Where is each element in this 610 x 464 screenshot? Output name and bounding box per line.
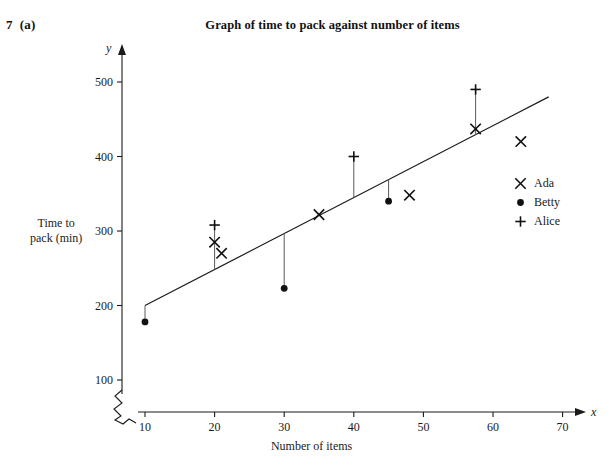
data-point-alice <box>470 84 480 94</box>
x-axis-tick-label: 40 <box>348 420 360 435</box>
y-axis-symbol: y <box>106 41 111 56</box>
data-point-ada <box>314 209 324 219</box>
data-point-alice <box>349 151 359 161</box>
y-axis-tick-label: 200 <box>95 298 113 313</box>
y-axis-arrow <box>118 44 126 55</box>
x-axis-tick-label: 50 <box>417 420 429 435</box>
legend-marker <box>515 178 525 188</box>
chart-legend: AdaBettyAlice <box>512 175 560 232</box>
data-points-group <box>142 84 526 325</box>
dot-icon <box>512 195 529 210</box>
scatter-plot <box>0 0 610 464</box>
legend-marker <box>515 216 525 226</box>
data-point-ada <box>216 248 226 258</box>
data-point-betty <box>142 318 149 325</box>
legend-label: Betty <box>534 195 560 210</box>
residual-lines-group <box>145 89 476 321</box>
data-point-ada <box>516 136 526 146</box>
x-axis-tick-label: 30 <box>278 420 290 435</box>
data-point-betty <box>385 198 392 205</box>
data-point-betty <box>281 285 288 292</box>
y-axis-tick-label: 500 <box>95 75 113 90</box>
x-axis-arrow <box>575 408 586 416</box>
y-axis-tick-label: 300 <box>95 224 113 239</box>
y-axis-label: Time to pack (min) <box>30 216 82 245</box>
x-axis-tick-label: 70 <box>557 420 569 435</box>
y-axis-tick-label: 100 <box>95 373 113 388</box>
trend-line-group <box>145 97 549 306</box>
cross-icon <box>512 176 529 191</box>
x-axis-tick-label: 10 <box>139 420 151 435</box>
axis-break-zigzag <box>114 390 136 424</box>
x-axis-label: Number of items <box>271 439 352 454</box>
legend-item-alice: Alice <box>512 213 560 230</box>
legend-label: Ada <box>534 176 554 191</box>
x-axis-tick-label: 60 <box>487 420 499 435</box>
data-point-alice <box>209 220 219 230</box>
legend-item-ada: Ada <box>512 175 560 192</box>
legend-label: Alice <box>534 214 560 229</box>
plus-icon <box>512 214 529 229</box>
y-axis-label-line2: pack (min) <box>30 231 82 245</box>
y-axis-tick-label: 400 <box>95 149 113 164</box>
y-axis-label-line1: Time to <box>38 216 75 230</box>
legend-item-betty: Betty <box>512 194 560 211</box>
legend-marker <box>517 199 524 206</box>
data-point-ada <box>404 190 414 200</box>
x-axis-tick-label: 20 <box>209 420 221 435</box>
trend-line <box>145 97 549 306</box>
axes-group <box>114 44 586 424</box>
worksheet-page: 7(a) Graph of time to pack against numbe… <box>0 0 610 464</box>
x-axis-symbol: x <box>591 405 596 420</box>
